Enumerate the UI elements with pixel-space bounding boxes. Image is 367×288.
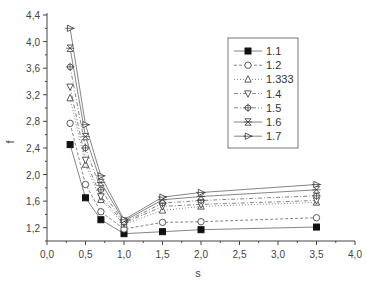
axes: 0,00,51,01,52,02,53,03,54,01,21,62,02,42…: [4, 10, 362, 279]
legend: 1.11.21.3331.41.51.61.7: [228, 38, 298, 148]
y-tick-label: 2,0: [26, 170, 40, 181]
y-tick-label: 1,6: [26, 196, 40, 207]
x-tick-label: 1,0: [117, 249, 131, 260]
y-tick-label: 3,2: [26, 90, 40, 101]
x-tick-label: 1,5: [156, 249, 170, 260]
square-shape: [245, 48, 251, 54]
y-tick-label: 1,2: [26, 223, 40, 234]
square-shape: [67, 142, 73, 148]
series-line-1.1: [70, 145, 316, 234]
square-shape: [160, 229, 166, 235]
x-tick-label: 2,5: [233, 249, 247, 260]
triangle-right-marker-icon: [81, 121, 90, 127]
y-tick-label: 3,6: [26, 63, 40, 74]
circle-marker-icon: [313, 215, 319, 221]
square-shape: [198, 227, 204, 233]
legend-label: 1.6: [266, 116, 281, 128]
x-axis-title: s: [195, 267, 201, 279]
y-axis-title: f: [4, 140, 16, 144]
triangle-down-marker-icon: [67, 84, 73, 90]
x-tick-label: 0,0: [40, 249, 54, 260]
x-tick-label: 0,5: [79, 249, 93, 260]
triangle-shape: [82, 157, 88, 163]
x-cross-marker-icon: [97, 179, 105, 185]
filled-square-marker-icon: [160, 229, 166, 235]
circle-shape: [82, 181, 88, 187]
square-shape: [314, 224, 320, 230]
filled-square-marker-icon: [314, 224, 320, 230]
circle-shape: [313, 215, 319, 221]
y-tick-label: 2,8: [26, 116, 40, 127]
legend-label: 1.4: [266, 88, 281, 100]
legend-label: 1.2: [266, 59, 281, 71]
circle-shape: [67, 120, 73, 126]
legend-label: 1.1: [266, 45, 281, 57]
triangle-right-marker-icon: [196, 189, 205, 195]
filled-square-marker-icon: [67, 142, 73, 148]
circle-shape: [98, 209, 104, 215]
y-tick-label: 4,4: [26, 10, 40, 21]
chart: 0,00,51,01,52,02,53,03,54,01,21,62,02,42…: [0, 0, 367, 288]
legend-label: 1.7: [266, 130, 281, 142]
circle-marker-icon: [245, 62, 251, 68]
filled-square-marker-icon: [83, 195, 89, 201]
legend-label: 1.5: [266, 102, 281, 114]
triangle-right-marker-icon: [65, 25, 74, 31]
square-shape: [98, 217, 104, 223]
x-tick-label: 3,5: [310, 249, 324, 260]
circle-marker-icon: [98, 209, 104, 215]
x-tick-label: 2,0: [194, 249, 208, 260]
triangle-shape: [67, 84, 73, 90]
filled-square-marker-icon: [98, 217, 104, 223]
square-shape: [83, 195, 89, 201]
circle-shape: [159, 219, 165, 225]
triangle-down-marker-icon: [82, 157, 88, 163]
circle-marker-icon: [82, 181, 88, 187]
legend-label: 1.333: [266, 73, 294, 85]
filled-square-marker-icon: [198, 227, 204, 233]
y-tick-label: 4,0: [26, 37, 40, 48]
x-tick-label: 3,0: [271, 249, 285, 260]
y-tick-label: 2,4: [26, 143, 40, 154]
circle-marker-icon: [159, 219, 165, 225]
legend-box: [228, 38, 298, 148]
x-tick-label: 4,0: [348, 249, 362, 260]
circle-shape: [198, 219, 204, 225]
circle-marker-icon: [67, 120, 73, 126]
circle-shape: [245, 62, 251, 68]
filled-square-marker-icon: [245, 48, 251, 54]
circle-marker-icon: [198, 219, 204, 225]
